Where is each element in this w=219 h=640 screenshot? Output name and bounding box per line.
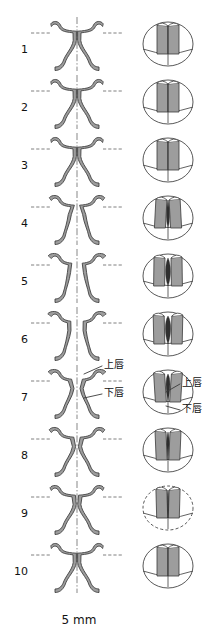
coronal-section-6: [18, 306, 136, 362]
coronal-section-4: [18, 190, 136, 246]
fold-left: [51, 79, 76, 128]
superior-panel-8: [136, 422, 200, 478]
fold-slab-left: [157, 547, 168, 576]
fold-slab-right: [171, 315, 183, 344]
fold-slab-left: [156, 489, 168, 518]
vocal-fold-left: [51, 137, 76, 186]
fold-right: [78, 427, 104, 476]
vocal-fold-right: [78, 485, 104, 534]
fold-slab-right: [170, 373, 183, 402]
cycle-phase-row-5: 5: [0, 248, 219, 306]
fold-left: [48, 311, 71, 360]
fold-left: [49, 427, 75, 476]
fold-pair: [31, 17, 123, 71]
cycle-phase-row-8: 8: [0, 422, 219, 480]
fold-slab-right: [168, 25, 179, 54]
coronal-panel-4: [18, 190, 136, 246]
fold-right: [78, 21, 103, 70]
coronal-panel-6: [18, 306, 136, 362]
fold-right: [82, 253, 105, 302]
vocal-fold-left: [48, 369, 74, 418]
label-upper-lip-superior: 上唇: [182, 378, 202, 388]
fold-slab-left: [154, 373, 167, 402]
fold-slab-right: [168, 547, 179, 576]
superior-view-1: [136, 16, 200, 72]
superior-panel-4: [136, 190, 200, 246]
coronal-panel-3: [18, 132, 136, 188]
fold-pair: [31, 75, 123, 129]
coronal-panel-2: [18, 74, 136, 130]
fold-slab-left: [157, 83, 168, 112]
cycle-phase-row-10: 10: [0, 538, 219, 596]
fold-slab-left: [155, 431, 167, 460]
vocal-fold-left: [50, 195, 75, 244]
fold-pair: [31, 423, 123, 477]
superior-panel-1: [136, 16, 200, 72]
cycle-phase-row-1: 1: [0, 16, 219, 74]
superior-view-10: [136, 538, 200, 594]
label-upper-lip-coronal: 上唇: [104, 360, 124, 370]
fold-slab-left: [154, 199, 167, 228]
coronal-section-9: [18, 480, 136, 536]
fold-right: [78, 79, 103, 128]
fold-pair: [31, 249, 123, 303]
fold-slab-right: [168, 83, 179, 112]
superior-view-3: [136, 132, 200, 188]
vocal-fold-right: [78, 427, 104, 476]
fold-pair: [31, 307, 123, 361]
fold-pair: [31, 133, 123, 187]
coronal-section-5: [18, 248, 136, 304]
coronal-panel-10: [18, 538, 136, 594]
vocal-fold-left: [51, 79, 76, 128]
fold-right: [83, 311, 106, 360]
vocal-fold-right: [78, 543, 103, 592]
coronal-section-3: [18, 132, 136, 188]
fold-slab-right: [171, 257, 182, 286]
coronal-section-8: [18, 422, 136, 478]
coronal-panel-9: [18, 480, 136, 536]
cycle-phase-row-6: 6: [0, 306, 219, 364]
fold-pair: [31, 481, 123, 535]
coronal-section-2: [18, 74, 136, 130]
superior-view-5: [136, 248, 200, 304]
fold-slab-left: [157, 141, 168, 170]
vocal-fold-left: [49, 427, 75, 476]
vocal-fold-vibration-figure: 12345678910上唇下唇上唇下唇5 mm: [0, 0, 219, 640]
superior-panel-9: [136, 480, 200, 536]
label-lower-lip-coronal: 下唇: [104, 388, 124, 398]
coronal-section-1: [18, 16, 136, 72]
fold-right: [78, 485, 104, 534]
vocal-fold-right: [80, 195, 105, 244]
fold-slab-right: [168, 141, 179, 170]
superior-panel-2: [136, 74, 200, 130]
vocal-fold-right: [78, 137, 103, 186]
vocal-fold-left: [51, 21, 76, 70]
fold-slab-right: [168, 489, 180, 518]
cycle-phase-row-4: 4: [0, 190, 219, 248]
superior-panel-5: [136, 248, 200, 304]
fold-slab-right: [169, 431, 181, 460]
scale-bar-label: 5 mm: [41, 614, 117, 626]
superior-panel-6: [136, 306, 200, 362]
coronal-panel-8: [18, 422, 136, 478]
fold-left: [50, 195, 75, 244]
coronal-section-10: [18, 538, 136, 594]
fold-left: [48, 253, 71, 302]
fold-left: [51, 137, 76, 186]
fold-slab-left: [153, 315, 165, 344]
superior-view-4: [136, 190, 200, 246]
label-lower-lip-superior: 下唇: [182, 404, 202, 414]
fold-left: [48, 369, 74, 418]
vocal-fold-right: [78, 79, 103, 128]
vocal-fold-left: [50, 485, 76, 534]
superior-view-2: [136, 74, 200, 130]
fold-pair: [31, 539, 123, 593]
fold-pair: [31, 191, 123, 245]
vocal-fold-left: [51, 543, 76, 592]
coronal-panel-1: [18, 16, 136, 72]
fold-slab-right: [169, 199, 182, 228]
fold-right: [80, 195, 105, 244]
vocal-fold-right: [80, 369, 106, 418]
fold-left: [51, 543, 76, 592]
fold-left: [51, 21, 76, 70]
